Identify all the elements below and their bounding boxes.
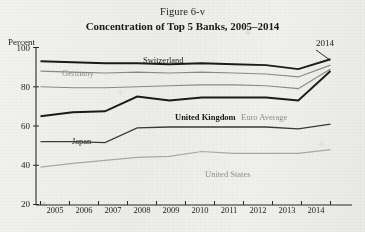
figure-page: Figure 6-v Concentration of Top 5 Banks,… — [0, 0, 365, 232]
series-line-japan — [41, 124, 331, 143]
series-lines — [41, 59, 331, 167]
chart-plot-area — [0, 0, 365, 232]
annotation-leader-line — [316, 50, 330, 60]
series-line-switzerland — [41, 59, 331, 69]
series-line-united-states — [41, 150, 331, 168]
x-axis-ticks — [41, 201, 331, 205]
series-line-united-kingdom — [41, 71, 331, 116]
